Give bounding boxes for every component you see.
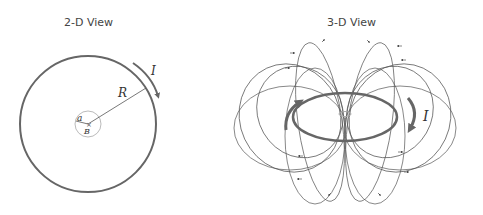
radius-line <box>88 88 146 124</box>
label-R: R <box>117 86 127 100</box>
label-B: B <box>83 127 90 136</box>
label-I-3d: I <box>422 108 429 124</box>
field-lines-3d <box>221 40 468 205</box>
label-a: a <box>77 113 82 123</box>
label-I-2d: I <box>150 64 156 78</box>
current-arrow-3d-right <box>408 98 415 129</box>
loop-2d: × <box>20 56 158 192</box>
diagram-canvas: × R I a B I <box>0 0 483 215</box>
